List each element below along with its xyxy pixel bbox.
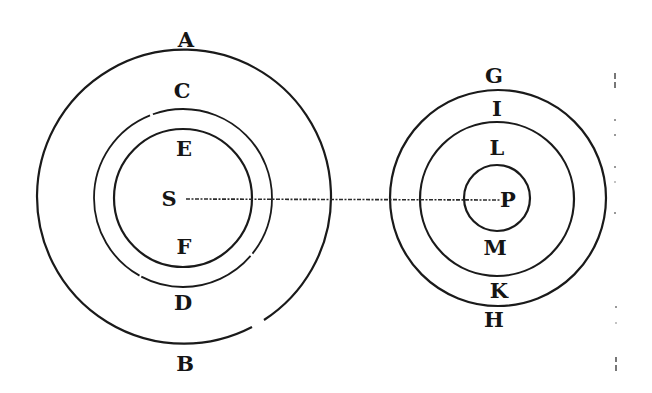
- label-e: E: [176, 138, 192, 159]
- label-i: I: [492, 98, 502, 119]
- right-system: [390, 90, 606, 306]
- label-d: D: [174, 292, 192, 313]
- label-s: S: [161, 188, 176, 209]
- inner-circle-p: [464, 165, 530, 231]
- label-l: L: [490, 137, 505, 158]
- label-g: G: [485, 65, 503, 86]
- two-body-orbit-diagram: [0, 0, 652, 393]
- margin-marks: [614, 73, 617, 371]
- label-a: A: [178, 29, 194, 50]
- label-h: H: [484, 309, 504, 330]
- label-b: B: [176, 353, 194, 374]
- label-p: P: [500, 189, 516, 210]
- line-s-to-p: [186, 199, 500, 200]
- label-k: K: [490, 280, 508, 301]
- label-c: C: [174, 80, 191, 101]
- label-m: M: [483, 237, 506, 258]
- label-f: F: [177, 236, 192, 257]
